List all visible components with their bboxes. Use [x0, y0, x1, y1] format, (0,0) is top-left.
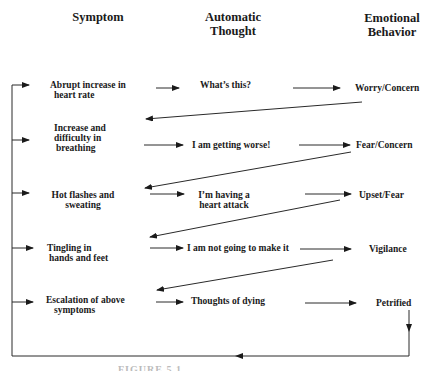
behavior-3: Upset/Fear — [359, 190, 404, 200]
header-line: Behavior — [352, 25, 432, 39]
symptom-line: symptoms — [46, 305, 125, 315]
behavior-line: Vigilance — [369, 244, 407, 254]
symptom-5: Escalation of above symptoms — [46, 295, 125, 315]
header-line: Emotional — [352, 11, 432, 25]
thought-line: Thoughts of dying — [191, 296, 265, 306]
symptom-2: Increase and difficulty in breathing — [54, 123, 106, 153]
behavior-1: Worry/Concern — [355, 83, 419, 93]
behavior-line: Fear/Concern — [356, 140, 412, 150]
panic-cycle-diagram: Symptom Automatic Thought Emotional Beha… — [0, 0, 433, 371]
column-header-symptom: Symptom — [66, 10, 130, 24]
behavior-2: Fear/Concern — [356, 140, 412, 150]
symptom-line: Hot flashes and — [50, 190, 116, 200]
behavior-4: Vigilance — [369, 244, 407, 254]
thought-line: heart attack — [196, 200, 252, 210]
thought-line: I am getting worse! — [192, 140, 270, 150]
thought-1: What’s this? — [200, 80, 251, 90]
connector-arrows — [0, 0, 433, 371]
symptom-1: Abrupt increase in heart rate — [50, 80, 126, 100]
symptom-line: hands and feet — [47, 253, 108, 263]
header-line: Thought — [196, 24, 270, 38]
symptom-line: heart rate — [50, 90, 126, 100]
thought-line: What’s this? — [200, 80, 251, 90]
symptom-line: Increase and — [54, 123, 106, 133]
thought-line: I am not going to make it — [187, 243, 289, 253]
symptom-line: breathing — [54, 143, 106, 153]
figure-caption: FIGURE 5.1 ... — [118, 364, 196, 371]
symptom-line: Tingling in — [47, 243, 108, 253]
behavior-line: Worry/Concern — [355, 83, 419, 93]
column-header-emotional-behavior: Emotional Behavior — [352, 11, 432, 39]
symptom-line: difficulty in — [54, 133, 106, 143]
header-line: Automatic — [196, 10, 270, 24]
thought-5: Thoughts of dying — [191, 296, 265, 306]
header-line: Symptom — [66, 10, 130, 24]
behavior-5: Petrified — [376, 298, 411, 308]
symptom-4: Tingling in hands and feet — [47, 243, 108, 263]
column-header-automatic-thought: Automatic Thought — [196, 10, 270, 38]
thought-line: I’m having a — [196, 190, 252, 200]
thought-2: I am getting worse! — [192, 140, 270, 150]
thought-3: I’m having a heart attack — [196, 190, 252, 210]
thought-4: I am not going to make it — [187, 243, 289, 253]
behavior-line: Petrified — [376, 298, 411, 308]
symptom-3: Hot flashes and sweating — [50, 190, 116, 210]
symptom-line: Abrupt increase in — [50, 80, 126, 90]
symptom-line: Escalation of above — [46, 295, 125, 305]
behavior-line: Upset/Fear — [359, 190, 404, 200]
symptom-line: sweating — [50, 200, 116, 210]
